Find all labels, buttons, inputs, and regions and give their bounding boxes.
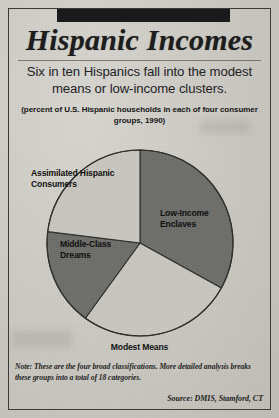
title-divider	[18, 60, 261, 61]
slice-label-line-2: Enclaves	[160, 219, 209, 230]
slice-label-line-2: Dreams	[60, 250, 111, 261]
units-note: (percent of U.S. Hispanic households in …	[18, 104, 261, 126]
figure-page: Hispanic Incomes Six in ten Hispanics fa…	[0, 0, 279, 418]
paper-grain-texture	[0, 0, 279, 418]
page-title: Hispanic Incomes	[0, 24, 279, 56]
slice-label-low-income-enclaves: Low-Income Enclaves	[160, 208, 209, 231]
slice-label-modest-means: Modest Means	[0, 342, 279, 353]
slice-label-assimilated-hispanic-consumers: Assimilated Hispanic Consumers	[31, 168, 114, 191]
source-credit: Source: DMIS, Stamford, CT	[167, 394, 263, 403]
slice-label-line-1: Assimilated Hispanic	[31, 168, 114, 179]
deck-subtitle: Six in ten Hispanics fall into the modes…	[14, 64, 265, 98]
slice-label-line-1: Low-Income	[160, 208, 209, 219]
pie-chart-svg	[0, 0, 279, 418]
pie-chart	[0, 0, 279, 418]
top-black-bar	[57, 9, 230, 22]
slice-label-line-1: Middle-Class	[60, 239, 111, 250]
slice-label-line-2: Consumers	[31, 179, 114, 190]
footnote-note: Note: These are the four broad classific…	[15, 362, 265, 384]
slice-label-middle-class-dreams: Middle-Class Dreams	[60, 239, 111, 262]
slice-label-line-1: Modest Means	[0, 342, 279, 353]
pie-slice-assimilated-hispanic-consumers	[48, 150, 140, 243]
